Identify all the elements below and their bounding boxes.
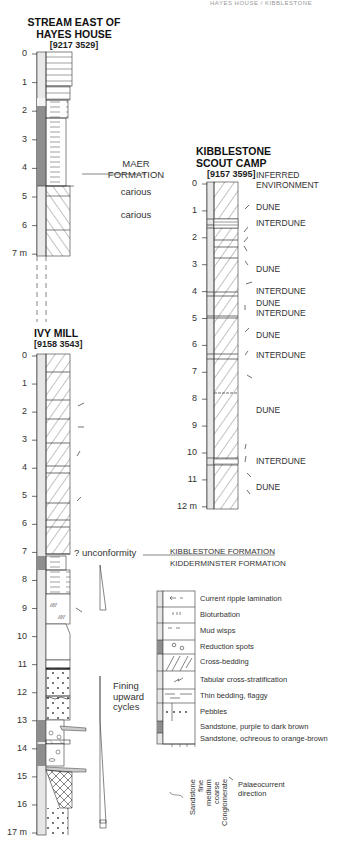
bed (46, 624, 70, 660)
colour-column (207, 182, 214, 509)
svg-text:////: //// (49, 602, 58, 608)
ivy-mill-log: //// //// (37, 354, 275, 835)
bed-pebbly (46, 668, 70, 696)
bed (46, 660, 70, 668)
colour-band-purple (37, 106, 46, 186)
bed-reduction-spots (46, 744, 64, 766)
lens (60, 726, 86, 731)
bed-pebbly (46, 696, 70, 720)
bed (46, 100, 68, 118)
palaeocurrent-arrows (244, 205, 252, 494)
bed (46, 52, 72, 86)
bed (46, 740, 70, 744)
legend-column (157, 591, 233, 798)
fining-upward-bracket (100, 676, 106, 823)
palaeocurrent-legend-arrow (229, 777, 233, 780)
colour-band-purple (37, 720, 46, 742)
bed-pebbly (46, 808, 68, 835)
colour-band-purple (37, 556, 46, 570)
bed (46, 118, 66, 186)
bed-cross-bedded (46, 186, 70, 256)
stream-east-log (37, 52, 146, 322)
bed-mud-wisps (46, 570, 70, 594)
log-drawing: //// //// (0, 0, 351, 845)
bed (46, 86, 70, 100)
fining-upward-bracket (100, 565, 106, 610)
svg-text:////: //// (57, 614, 66, 620)
colour-band (37, 98, 46, 106)
bed-conglomerate (46, 770, 72, 808)
kibblestone-log (207, 182, 252, 509)
palaeocurrent-arrows (76, 403, 84, 612)
bed (46, 556, 66, 570)
bed-cross-bedded (46, 354, 70, 554)
colour-band-purple (37, 744, 46, 766)
